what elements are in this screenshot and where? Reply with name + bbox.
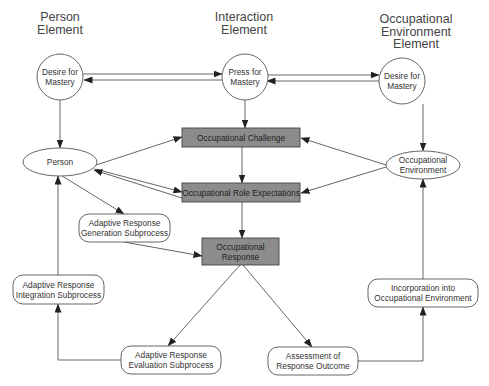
label-line: Integration Subprocess (13, 290, 104, 300)
label-assessment: Assessment of Response Outcome (268, 351, 358, 371)
label-line: Environment (386, 165, 460, 175)
label-incorporation: Incorporation into Occupational Environm… (368, 283, 478, 303)
label-line: Desire for (37, 67, 83, 77)
label-occupational-role-expectations: Occupational Role Expectations (182, 188, 300, 198)
header-interaction-element: Interaction Element (199, 11, 289, 36)
label-occupational-challenge: Occupational Challenge (182, 133, 300, 143)
edge-role-to-person (94, 170, 182, 198)
label-line: Incorporation into (368, 283, 478, 293)
label-line: Response (202, 252, 279, 262)
header-line: Occupational (361, 13, 471, 26)
edge-generation-to-response (124, 242, 202, 256)
label-line: Evaluation Subprocess (121, 360, 221, 370)
label-evaluation-subprocess: Adaptive Response Evaluation Subprocess (121, 350, 221, 370)
edge-env-to-challenge (301, 138, 386, 165)
label-line: Response Outcome (268, 361, 358, 371)
label-line: Occupational (202, 242, 279, 252)
label-line: Occupational Role Expectations (182, 188, 300, 198)
label-line: Person (23, 157, 97, 167)
header-line: Element (20, 24, 100, 37)
label-desire-person: Desire for Mastery (37, 67, 83, 87)
edge-assessment-to-incorporation (358, 307, 423, 361)
label-line: Press for (222, 67, 268, 77)
label-integration-subprocess: Adaptive Response Integration Subprocess (13, 280, 104, 300)
label-line: Adaptive Response (121, 350, 221, 360)
label-line: Adaptive Response (79, 218, 170, 228)
edge-response-to-evaluation (168, 265, 240, 346)
label-line: Mastery (37, 77, 83, 87)
label-line: Occupational Environment (368, 293, 478, 303)
edge-env-to-role (301, 167, 386, 193)
label-line: Mastery (222, 77, 268, 87)
label-generation-subprocess: Adaptive Response Generation Subprocess (79, 218, 170, 238)
label-press-for-mastery: Press for Mastery (222, 67, 268, 87)
label-line: Occupational (386, 155, 460, 165)
label-occupational-environment: Occupational Environment (386, 155, 460, 175)
edge-person-to-challenge (96, 137, 182, 165)
label-person: Person (23, 157, 97, 167)
header-line: Interaction (199, 11, 289, 24)
header-line: Element (361, 38, 471, 51)
edge-person-to-generation (62, 176, 124, 214)
header-environment-element: Occupational Environment Element (361, 13, 471, 51)
label-line: Adaptive Response (13, 280, 104, 290)
edge-evaluation-to-integration (58, 304, 121, 360)
label-line: Mastery (379, 81, 425, 91)
label-line: Generation Subprocess (79, 228, 170, 238)
label-desire-environment: Desire for Mastery (379, 71, 425, 91)
label-line: Occupational Challenge (182, 133, 300, 143)
label-line: Assessment of (268, 351, 358, 361)
label-line: Desire for (379, 71, 425, 81)
header-line: Person (20, 11, 100, 24)
header-person-element: Person Element (20, 11, 100, 36)
header-line: Element (199, 24, 289, 37)
label-occupational-response: Occupational Response (202, 242, 279, 262)
edge-person-to-role (95, 169, 182, 192)
edge-response-to-assessment (243, 265, 312, 347)
